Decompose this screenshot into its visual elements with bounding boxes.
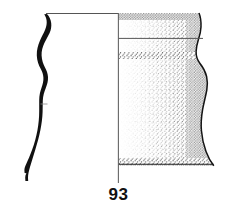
section-profile-group (24, 14, 51, 181)
base-stipple-band (118, 158, 218, 166)
elevation-group (110, 0, 230, 200)
pottery-figure: 93 (0, 0, 235, 218)
vessel-section-silhouette (24, 14, 51, 181)
neck-stipple-band (118, 52, 214, 59)
catalogue-number-label: 93 (0, 186, 235, 203)
